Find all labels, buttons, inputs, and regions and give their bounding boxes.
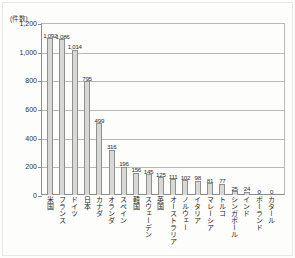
bar-slot: 98 [192,23,204,195]
x-axis-category-label: シンガポール [231,196,238,256]
bar: 499 [96,123,102,195]
x-label-slot: スペイン [118,196,130,256]
bar-slot: 77 [216,23,228,195]
bar: 111 [170,179,176,195]
bar: 77 [219,184,225,195]
x-axis-category-label: 日本 [84,196,91,256]
bar-value-label: 98 [195,174,201,181]
x-axis-category-label: 米国 [47,196,54,256]
y-axis-tick-label: 1,000 [19,48,37,55]
bar-slot: 1,014 [69,23,81,195]
x-axis-category-label: カタール [268,196,275,256]
x-axis-category-label: スペイン [120,196,127,256]
bar: 102 [182,180,188,195]
bar-value-label: 499 [95,117,104,124]
bar-value-label: 25 [231,185,237,192]
x-axis-category-label: ポーランド [256,196,263,256]
x-label-slot: ドイツ [69,196,81,256]
bar-slot: 102 [179,23,191,195]
bar-value-label: 81 [207,177,213,184]
x-label-slot: オーストラリア [167,196,179,256]
bar: 145 [146,174,152,195]
x-label-slot: マレーシア [204,196,216,256]
x-label-slot: カタール [265,196,277,256]
y-axis-tick-label: 800 [25,77,37,84]
x-label-slot: トルコ [216,196,228,256]
bar-value-label: 102 [181,174,190,181]
bar: 98 [195,181,201,195]
x-axis-labels: 米国フランスドイツ日本カナダオランダスペイン韓国スウェーデン英国オーストラリアノ… [41,196,285,256]
x-label-slot: ノルウェー [179,196,191,256]
bar-slot: 145 [142,23,154,195]
x-axis-category-label: ドイツ [71,196,78,256]
x-axis-category-label: トルコ [219,196,226,256]
x-label-slot: 米国 [44,196,56,256]
bar-value-label: 111 [169,173,178,180]
bar: 81 [207,183,213,195]
bar-slot: 196 [118,23,130,195]
bar: 196 [121,167,127,195]
y-axis-tick-label: 200 [25,163,37,170]
bar-value-label: 196 [119,160,128,167]
bar-value-label: 77 [219,177,225,184]
bar: 156 [133,173,139,195]
bar: 24 [244,192,250,195]
y-axis-tick-label: 400 [25,134,37,141]
x-axis-category-label: マレーシア [207,196,214,256]
x-label-slot: 英国 [155,196,167,256]
bar: 1,086 [59,39,65,195]
bar-slot: 499 [93,23,105,195]
bar-slot: 81 [204,23,216,195]
x-label-slot: ポーランド [253,196,265,256]
x-label-slot: 韓国 [130,196,142,256]
bar-value-label: 24 [244,185,250,192]
y-axis-tick-label: 600 [25,106,37,113]
bar-slot: 1,086 [56,23,68,195]
bar: 1,092 [47,38,53,195]
x-axis-category-label: カナダ [96,196,103,256]
bar-chart: (件数) 02004006008001,0001,200 1,0921,0861… [0,0,295,258]
bar-value-label: 795 [82,75,91,82]
bar-value-label: 316 [107,143,116,150]
bar: 795 [84,81,90,195]
x-axis-category-label: スウェーデン [145,196,152,256]
bar-value-label: 125 [156,171,165,178]
x-axis-category-label: オーストラリア [170,196,177,256]
bar-slot: 0 [265,23,277,195]
x-label-slot: オランダ [105,196,117,256]
bar-value-label: 1,014 [68,43,82,50]
x-axis-category-label: 韓国 [133,196,140,256]
bar-value-label: 156 [132,166,141,173]
bar: 1,014 [72,50,78,195]
bar: 25 [232,191,238,195]
x-axis-category-label: インド [243,196,250,256]
x-axis-category-label: ノルウェー [182,196,189,256]
x-axis-category-label: 英国 [157,196,164,256]
bar-slot: 795 [81,23,93,195]
bar-value-label: 0 [258,188,261,195]
x-label-slot: シンガポール [228,196,240,256]
x-label-slot: スウェーデン [142,196,154,256]
bars-layer: 1,0921,0861,0147954993161961561451251111… [41,23,285,195]
y-axis-tick-label: 1,200 [19,20,37,27]
bar-slot: 0 [253,23,265,195]
x-label-slot: インド [241,196,253,256]
bar-slot: 156 [130,23,142,195]
bar: 316 [109,150,115,195]
y-axis-tick-label: 0 [33,192,37,199]
y-axis-labels: 02004006008001,0001,200 [6,23,37,195]
bar-slot: 316 [105,23,117,195]
x-axis-category-label: オランダ [108,196,115,256]
bar-slot: 25 [228,23,240,195]
bar-value-label: 0 [270,188,273,195]
x-label-slot: フランス [56,196,68,256]
x-label-slot: カナダ [93,196,105,256]
x-axis-category-label: イタリア [194,196,201,256]
bar-slot: 125 [155,23,167,195]
x-label-slot: イタリア [192,196,204,256]
x-label-slot: 日本 [81,196,93,256]
x-axis-category-label: フランス [59,196,66,256]
bar-slot: 24 [241,23,253,195]
bar: 125 [158,177,164,195]
bar-slot: 111 [167,23,179,195]
